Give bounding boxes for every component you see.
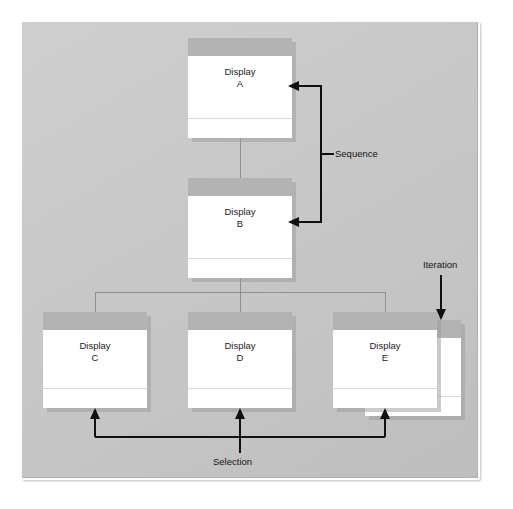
node-divider <box>188 258 292 259</box>
selection-stem-c <box>94 419 96 437</box>
node-label: Display C <box>43 340 147 364</box>
connector-bus-to-c <box>95 292 96 312</box>
node-label: Display B <box>188 206 292 230</box>
diagram-canvas: Display A Display B Display C <box>0 0 513 509</box>
sequence-arrow-to-a <box>288 81 299 91</box>
node-label: Display D <box>188 340 292 364</box>
selection-stem-d <box>239 419 241 437</box>
node-display-a[interactable]: Display A <box>188 38 292 138</box>
node-divider <box>188 118 292 119</box>
node-label: Display E <box>333 340 437 364</box>
selection-arrow-to-c <box>90 408 100 419</box>
selection-stem-e <box>384 419 386 437</box>
iteration-label: Iteration <box>423 259 457 270</box>
iteration-arrow-head <box>436 309 446 320</box>
selection-label: Selection <box>213 456 252 467</box>
node-titlebar <box>188 178 292 196</box>
node-divider <box>188 388 292 389</box>
node-divider <box>333 388 437 389</box>
selection-arrow-to-d <box>235 408 245 419</box>
node-frame: Display B <box>188 178 292 278</box>
sequence-bracket-top-arm <box>298 85 322 87</box>
node-display-d[interactable]: Display D <box>188 312 292 408</box>
iteration-arrow-stem <box>440 275 442 311</box>
connector-bus-to-e <box>385 292 386 312</box>
node-label: Display A <box>188 66 292 90</box>
node-display-b[interactable]: Display B <box>188 178 292 278</box>
node-titlebar <box>188 38 292 56</box>
node-titlebar <box>188 312 292 330</box>
connector-bus-to-d <box>240 292 241 312</box>
selection-label-tick <box>239 436 241 453</box>
node-display-c[interactable]: Display C <box>43 312 147 408</box>
node-titlebar <box>43 312 147 330</box>
sequence-bracket-bottom-arm <box>298 221 322 223</box>
node-divider <box>43 388 147 389</box>
node-display-e[interactable]: Display E <box>333 312 437 408</box>
node-frame: Display C <box>43 312 147 408</box>
sequence-label-tick <box>320 153 334 155</box>
node-frame: Display A <box>188 38 292 138</box>
selection-arrow-to-e <box>380 408 390 419</box>
sequence-arrow-to-b <box>288 217 299 227</box>
node-frame: Display D <box>188 312 292 408</box>
node-titlebar <box>333 312 437 330</box>
node-frame: Display E <box>333 312 437 408</box>
connector-a-to-b <box>240 138 241 179</box>
sequence-label: Sequence <box>335 148 378 159</box>
